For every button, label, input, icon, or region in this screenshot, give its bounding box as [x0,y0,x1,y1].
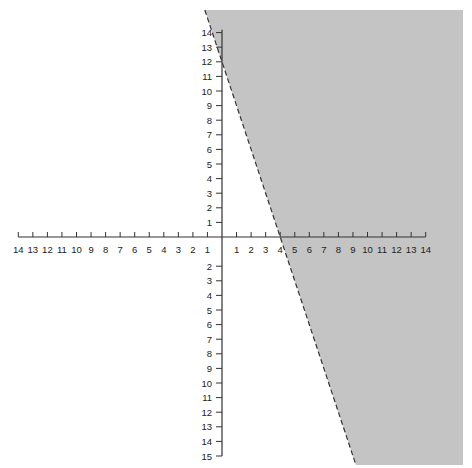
y-tick-label: 14 [201,436,212,447]
x-tick-label: 2 [190,244,195,255]
x-tick-label: 11 [377,244,387,255]
y-tick-label: 11 [202,71,212,82]
x-tick-label: 3 [263,244,268,255]
x-tick-label: 4 [161,244,166,255]
x-tick-label: 1 [205,244,210,255]
x-tick-label: 3 [176,244,181,255]
y-tick-label: 10 [201,378,212,389]
x-tick-label: 7 [321,244,326,255]
x-tick-label: 7 [118,244,123,255]
y-tick-label: 8 [207,348,212,359]
y-tick-label: 14 [201,27,212,38]
y-tick-label: 2 [207,202,212,213]
x-tick-label: 12 [391,244,402,255]
x-tick-label: 4 [278,244,283,255]
x-tick-label: 14 [420,244,431,255]
y-tick-label: 7 [207,129,212,140]
x-tick-label: 10 [362,244,373,255]
x-tick-label: 8 [336,244,341,255]
y-tick-label: 11 [202,392,212,403]
y-tick-label: 9 [207,363,212,374]
x-tick-label: 5 [292,244,297,255]
y-tick-label: 12 [201,56,212,67]
x-tick-label: 14 [13,244,24,255]
y-tick-label: 3 [207,275,212,286]
x-tick-label: 13 [28,244,39,255]
y-tick-label: 13 [201,421,212,432]
x-tick-label: 9 [88,244,93,255]
y-tick-label: 13 [201,42,212,53]
y-tick-label: 1 [207,217,212,228]
y-tick-label: 6 [207,144,212,155]
y-tick-label: 7 [207,334,212,345]
y-tick-label: 5 [207,159,212,170]
y-tick-label: 3 [207,188,212,199]
y-tick-label: 6 [207,319,212,330]
y-tick-label: 2 [207,261,212,272]
x-tick-label: 9 [350,244,355,255]
y-tick-label: 4 [207,173,212,184]
x-tick-label: 10 [71,244,82,255]
x-tick-label: 12 [42,244,53,255]
y-tick-label: 12 [201,407,212,418]
x-tick-label: 8 [103,244,108,255]
x-tick-label: 13 [406,244,417,255]
x-tick-label: 1 [234,244,239,255]
x-tick-label: 11 [57,244,67,255]
y-tick-label: 8 [207,115,212,126]
x-tick-label: 5 [147,244,152,255]
x-tick-label: 6 [307,244,312,255]
y-tick-label: 10 [201,86,212,97]
inequality-graph: 1413121110987654321123456789101112131414… [0,0,472,468]
x-tick-label: 6 [132,244,137,255]
y-tick-label: 15 [201,451,212,462]
x-tick-label: 2 [248,244,253,255]
y-tick-label: 4 [207,290,212,301]
y-tick-label: 9 [207,100,212,111]
y-tick-label: 5 [207,305,212,316]
